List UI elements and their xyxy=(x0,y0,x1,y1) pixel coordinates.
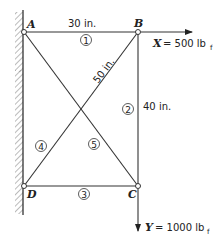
joint-b xyxy=(136,30,141,35)
node-label-d: D xyxy=(26,188,37,201)
dimension-diagonal: 50 in. xyxy=(91,56,117,85)
node-label-b: B xyxy=(133,17,143,30)
dimension-top: 30 in. xyxy=(68,18,96,29)
member-number-5: 5 xyxy=(89,139,100,150)
svg-text:= 1000 lb: = 1000 lb xyxy=(155,222,204,233)
joint-d xyxy=(22,184,27,189)
member-number-4: 4 xyxy=(36,141,47,152)
node-label-c: C xyxy=(128,188,137,201)
joint-a xyxy=(22,30,27,35)
svg-text:5: 5 xyxy=(91,140,97,150)
load-label-y: Y = 1000 lb f xyxy=(145,221,210,236)
member-number-2: 2 xyxy=(123,104,134,115)
member-number-1: 1 xyxy=(81,35,92,46)
svg-text:4: 4 xyxy=(38,142,44,152)
svg-text:Y: Y xyxy=(145,221,154,234)
svg-text:f: f xyxy=(207,228,210,236)
svg-text:2: 2 xyxy=(125,105,131,115)
svg-text:= 500 lb: = 500 lb xyxy=(163,38,206,49)
truss-members xyxy=(24,32,138,186)
svg-text:X: X xyxy=(152,37,162,50)
load-label-x: X = 500 lb f xyxy=(152,37,213,52)
svg-text:3: 3 xyxy=(81,190,87,200)
svg-text:1: 1 xyxy=(83,36,89,46)
node-label-a: A xyxy=(26,18,36,31)
member-number-3: 3 xyxy=(79,189,90,200)
svg-text:f: f xyxy=(210,44,213,52)
dimension-right: 40 in. xyxy=(143,101,171,112)
truss-diagram: A B C D 30 in. 50 in. 40 in. 1 2 3 4 5 X… xyxy=(0,0,217,242)
